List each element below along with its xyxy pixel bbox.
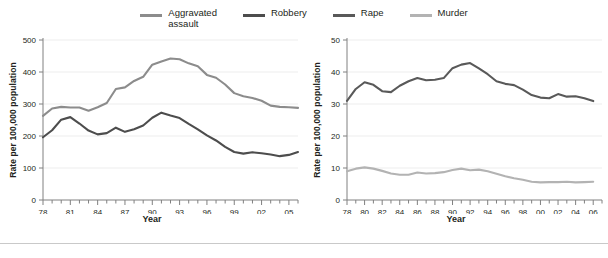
- y-tick-label: 50: [331, 36, 340, 45]
- legend-label-aggravated-assault: Aggravated assault: [168, 8, 217, 29]
- crime-rate-figure: Aggravated assault Robbery Rape Murder R…: [0, 0, 608, 258]
- y-tick-label: 20: [331, 132, 340, 141]
- series-line: [43, 113, 298, 157]
- plot-area-left: 010020030040050078818487909396990205: [0, 34, 304, 214]
- chart-panel-left: Rate per 100,000 population 010020030040…: [0, 34, 304, 234]
- chart-panel-right: Rate per 100,000 population 010203040507…: [304, 34, 608, 234]
- footer-divider: [0, 243, 608, 244]
- legend-swatch-murder-icon: [410, 14, 432, 17]
- y-tick-label: 0: [336, 196, 341, 205]
- legend-swatch-rape-icon: [333, 14, 355, 17]
- y-tick-label: 40: [331, 68, 340, 77]
- chart-legend: Aggravated assault Robbery Rape Murder: [0, 8, 608, 36]
- x-axis-label-right: Year: [304, 214, 608, 224]
- x-axis-label-left: Year: [0, 214, 304, 224]
- y-tick-label: 0: [32, 196, 37, 205]
- series-line: [43, 59, 298, 116]
- y-tick-label: 10: [331, 164, 340, 173]
- legend-item-robbery: Robbery: [243, 8, 307, 19]
- legend-label-robbery: Robbery: [271, 8, 307, 19]
- legend-item-rape: Rape: [333, 8, 384, 19]
- legend-label-murder: Murder: [438, 8, 468, 19]
- y-tick-label: 30: [331, 100, 340, 109]
- y-tick-label: 100: [23, 164, 37, 173]
- y-tick-label: 300: [23, 100, 37, 109]
- legend-label-rape: Rape: [361, 8, 384, 19]
- legend-item-aggravated-assault: Aggravated assault: [140, 8, 217, 29]
- legend-swatch-aggravated-assault-icon: [140, 14, 162, 17]
- series-line: [347, 63, 593, 101]
- y-tick-label: 400: [23, 68, 37, 77]
- plot-area-right: 0102030405078808284868890929496980002040…: [304, 34, 608, 214]
- y-tick-label: 200: [23, 132, 37, 141]
- chart-panels: Rate per 100,000 population 010020030040…: [0, 34, 608, 234]
- series-line: [347, 167, 593, 182]
- y-tick-label: 500: [23, 36, 37, 45]
- legend-swatch-robbery-icon: [243, 14, 265, 17]
- legend-item-murder: Murder: [410, 8, 468, 19]
